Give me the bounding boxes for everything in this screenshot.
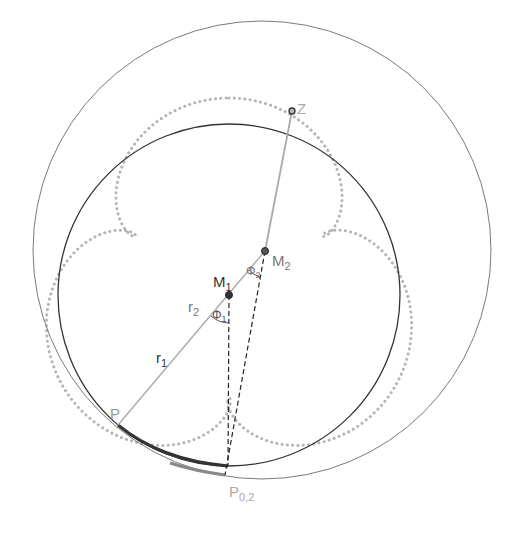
point-z xyxy=(289,108,295,114)
label-m1: M1 xyxy=(213,273,232,293)
label-p: P xyxy=(110,405,120,422)
label-m2: M2 xyxy=(272,252,291,272)
label-r1: r1 xyxy=(156,349,167,369)
label-z: Z xyxy=(297,100,306,117)
epicycle-diagram: M1 M2 Z P P0,2 r1 r2 Φ1 Φ2 xyxy=(0,0,507,534)
label-phi1: Φ1 xyxy=(212,308,227,324)
point-m2 xyxy=(262,248,269,255)
label-r2: r2 xyxy=(188,298,199,318)
label-p02: P0,2 xyxy=(229,483,254,503)
dashed-line-m1 xyxy=(228,295,229,466)
radius-line-r1 xyxy=(118,251,265,425)
label-phi2: Φ2 xyxy=(246,264,261,280)
